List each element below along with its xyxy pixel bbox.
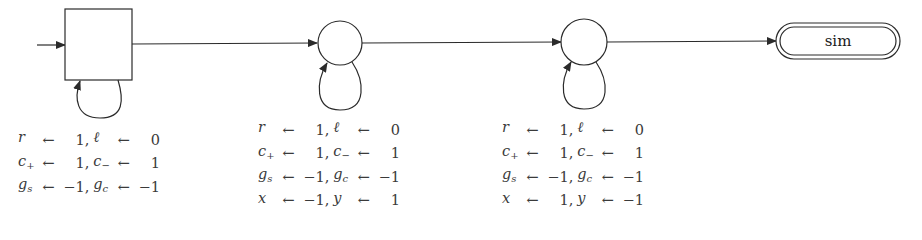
value-1: 1 bbox=[63, 128, 85, 152]
variable-1-text: c bbox=[258, 143, 266, 159]
value-2-text: −1 bbox=[623, 192, 644, 208]
value-2: −1 bbox=[622, 189, 644, 213]
assign-arrow-1-text: ← bbox=[283, 145, 295, 161]
assign-arrow-2-text: ← bbox=[118, 155, 130, 171]
assign-arrow-1-text: ← bbox=[283, 169, 295, 185]
assign-arrow-2-text: ← bbox=[602, 145, 614, 161]
variable-1: x bbox=[258, 189, 275, 213]
variable-2-text: ℓ bbox=[93, 129, 99, 145]
variable-2-text: ℓ bbox=[577, 119, 583, 135]
variable-2-text: y bbox=[577, 190, 585, 206]
separator: , bbox=[569, 118, 578, 142]
variable-2-subscript: − bbox=[585, 150, 593, 161]
variable-2-text: ℓ bbox=[333, 119, 339, 135]
value-1: 1 bbox=[63, 152, 85, 176]
assign-arrow-2-text: ← bbox=[358, 192, 370, 208]
separator: , bbox=[325, 118, 334, 142]
variable-2: ℓ bbox=[577, 118, 594, 142]
value-1: 1 bbox=[547, 189, 569, 213]
variable-1-text: r bbox=[258, 119, 265, 135]
value-2: 1 bbox=[378, 142, 400, 166]
variable-2: gc bbox=[93, 175, 110, 199]
separator: , bbox=[569, 142, 578, 166]
assignment-row: c+←1,c−←1 bbox=[18, 152, 160, 176]
variable-2: y bbox=[333, 189, 350, 213]
separator: , bbox=[569, 189, 578, 213]
value-2-text: −1 bbox=[139, 179, 160, 195]
assign-arrow-2: ← bbox=[110, 175, 138, 199]
assign-arrow-1: ← bbox=[519, 118, 547, 142]
value-2-text: 1 bbox=[391, 192, 400, 208]
variable-1-text: r bbox=[502, 119, 509, 135]
separator: , bbox=[569, 165, 578, 189]
assign-arrow-1: ← bbox=[35, 175, 63, 199]
assign-arrow-1-text: ← bbox=[527, 169, 539, 185]
assign-arrow-1-text: ← bbox=[283, 192, 295, 208]
variable-2-subscript: c bbox=[587, 173, 593, 184]
assign-arrow-2-text: ← bbox=[118, 132, 130, 148]
value-1: −1 bbox=[547, 165, 569, 189]
variable-2-subscript: − bbox=[101, 160, 109, 171]
value-2-text: 1 bbox=[151, 155, 160, 171]
variable-2: y bbox=[577, 189, 594, 213]
variable-1: r bbox=[18, 128, 35, 152]
final-state-label: sim bbox=[825, 32, 852, 50]
assign-arrow-2-text: ← bbox=[602, 169, 614, 185]
assign-arrow-2: ← bbox=[350, 142, 378, 166]
assign-arrow-1: ← bbox=[275, 165, 303, 189]
variable-1: gs bbox=[502, 165, 519, 189]
value-2: −1 bbox=[138, 175, 160, 199]
variable-1: gs bbox=[258, 165, 275, 189]
value-1: −1 bbox=[303, 165, 325, 189]
separator: , bbox=[85, 175, 94, 199]
assign-arrow-1-text: ← bbox=[527, 192, 539, 208]
assignment-row: x←−1,y←1 bbox=[258, 189, 400, 213]
value-1: 1 bbox=[547, 142, 569, 166]
value-1-text: 1 bbox=[315, 145, 324, 161]
assign-arrow-2-text: ← bbox=[602, 192, 614, 208]
value-1: 1 bbox=[303, 142, 325, 166]
value-1-text: −1 bbox=[547, 169, 568, 185]
assign-arrow-1-text: ← bbox=[527, 122, 539, 138]
edge-state1-to-state2 bbox=[362, 42, 561, 43]
state2-assignments: r←1,ℓ←0c+←1,c−←1gs←−1,gc←−1x←1,y←−1 bbox=[502, 118, 644, 212]
variable-1-subscript: s bbox=[267, 173, 272, 184]
assign-arrow-1: ← bbox=[519, 189, 547, 213]
separator: , bbox=[325, 189, 334, 213]
separator-text: , bbox=[569, 122, 574, 138]
assign-arrow-1: ← bbox=[275, 118, 303, 142]
value-1-text: 1 bbox=[559, 192, 568, 208]
value-1-text: 1 bbox=[75, 132, 84, 148]
assign-arrow-2-text: ← bbox=[358, 122, 370, 138]
variable-1-text: r bbox=[18, 129, 25, 145]
variable-1-text: c bbox=[18, 153, 26, 169]
value-2-text: 0 bbox=[635, 122, 644, 138]
assign-arrow-2: ← bbox=[594, 142, 622, 166]
assignment-row: r←1,ℓ←0 bbox=[18, 128, 160, 152]
variable-1-subscript: + bbox=[266, 150, 274, 161]
value-1-text: −1 bbox=[303, 192, 324, 208]
value-2-text: 0 bbox=[391, 122, 400, 138]
variable-2: c− bbox=[333, 142, 350, 166]
assignment-row: r←1,ℓ←0 bbox=[258, 118, 400, 142]
assign-arrow-1-text: ← bbox=[527, 145, 539, 161]
separator-text: , bbox=[569, 169, 574, 185]
assign-arrow-1-text: ← bbox=[43, 155, 55, 171]
edge-state2-to-final bbox=[607, 41, 776, 42]
variable-1-text: g bbox=[258, 166, 267, 182]
assign-arrow-2-text: ← bbox=[602, 122, 614, 138]
state2-self-loop-arrow bbox=[563, 62, 605, 109]
value-2: 0 bbox=[622, 118, 644, 142]
assign-arrow-1: ← bbox=[519, 142, 547, 166]
value-1-text: 1 bbox=[315, 122, 324, 138]
separator-text: , bbox=[85, 132, 90, 148]
value-2: 1 bbox=[378, 189, 400, 213]
state1-self-loop-arrow bbox=[319, 62, 361, 110]
separator: , bbox=[325, 165, 334, 189]
assign-arrow-2: ← bbox=[594, 189, 622, 213]
variable-1: c+ bbox=[502, 142, 519, 166]
assign-arrow-2: ← bbox=[350, 118, 378, 142]
value-2: 0 bbox=[138, 128, 160, 152]
assignment-row: r←1,ℓ←0 bbox=[502, 118, 644, 142]
variable-2: gc bbox=[333, 165, 350, 189]
